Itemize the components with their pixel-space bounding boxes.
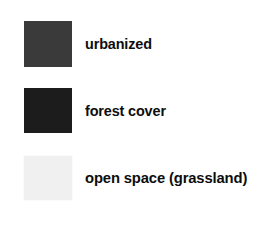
- forest-cover-swatch: [24, 88, 72, 133]
- legend-label-open-space: open space (grassland): [85, 170, 247, 186]
- legend-label-forest-cover: forest cover: [85, 102, 166, 118]
- legend-row: open space (grassland): [0, 156, 277, 200]
- legend-row: urbanized: [0, 21, 277, 67]
- urbanized-swatch: [24, 21, 72, 67]
- legend-row: forest cover: [0, 88, 277, 133]
- map-legend: urbanized forest cover open space (grass…: [0, 0, 277, 232]
- legend-label-urbanized: urbanized: [85, 36, 152, 52]
- open-space-swatch: [24, 156, 72, 200]
